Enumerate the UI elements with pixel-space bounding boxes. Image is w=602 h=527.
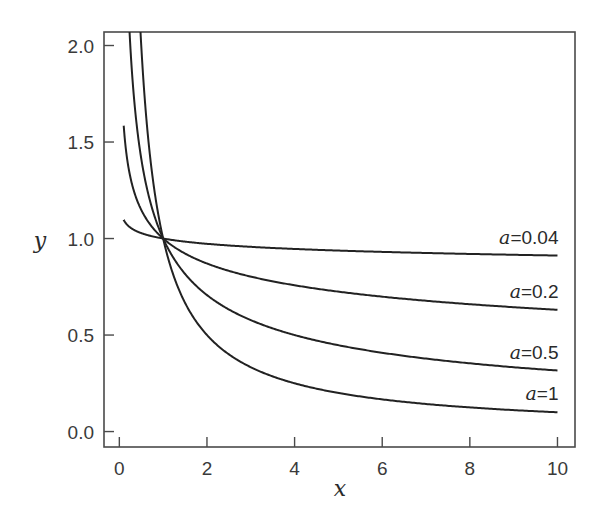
plot-area [124, 29, 558, 412]
chart: 0246810 0.00.51.01.52.0 a=0.04a=0.2a=0.5… [0, 0, 602, 527]
x-tick-label: 6 [377, 458, 388, 479]
series-label: a=1 [525, 382, 558, 404]
y-tick-label: 1.0 [68, 229, 94, 250]
series-line-a-1 [140, 29, 557, 412]
y-tick-label: 0.5 [68, 325, 94, 346]
y-tick-label: 0.0 [68, 422, 94, 443]
x-axis-label: x [334, 476, 347, 501]
x-tick-label: 8 [465, 458, 476, 479]
x-tick-label: 0 [114, 458, 125, 479]
x-tick-label: 10 [547, 458, 568, 479]
x-axis: 0246810 [114, 437, 568, 479]
series-line-a-0-04 [124, 220, 558, 256]
y-axis: 0.00.51.01.52.0 [68, 36, 114, 443]
series-labels: a=0.04a=0.2a=0.5a=1 [499, 226, 559, 405]
series-line-a-0-2 [124, 126, 558, 310]
series-label: a=0.2 [510, 280, 559, 302]
series-label: a=0.04 [499, 226, 559, 248]
y-tick-label: 2.0 [68, 36, 94, 57]
series-label: a=0.5 [510, 341, 559, 363]
x-tick-label: 2 [202, 458, 213, 479]
y-axis-label: y [33, 228, 47, 253]
y-tick-label: 1.5 [68, 132, 94, 153]
x-tick-label: 4 [289, 458, 300, 479]
